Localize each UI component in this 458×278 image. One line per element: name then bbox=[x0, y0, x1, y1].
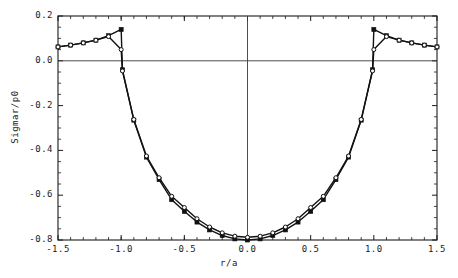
chart-figure bbox=[0, 0, 458, 278]
data-point-marker bbox=[56, 45, 60, 49]
figure-background bbox=[0, 0, 458, 278]
y-tick-label: -0.2 bbox=[19, 100, 53, 110]
data-point-marker bbox=[422, 43, 426, 47]
y-tick-label: -0.6 bbox=[19, 189, 53, 199]
x-tick-label: 1.5 bbox=[417, 244, 457, 254]
data-point-marker bbox=[384, 35, 388, 39]
data-point-marker bbox=[195, 217, 199, 221]
data-point-marker bbox=[208, 225, 212, 229]
data-point-marker bbox=[271, 231, 275, 235]
data-point-marker bbox=[309, 206, 313, 210]
x-axis-label: r/a bbox=[0, 258, 458, 268]
x-tick-label: -0.5 bbox=[164, 244, 204, 254]
data-point-marker bbox=[144, 154, 148, 158]
x-tick-label: -1.5 bbox=[38, 244, 78, 254]
data-point-marker bbox=[371, 69, 375, 73]
x-tick-label: 0.0 bbox=[228, 244, 268, 254]
data-point-marker bbox=[372, 48, 376, 52]
data-point-marker bbox=[119, 27, 123, 31]
data-point-marker bbox=[120, 69, 124, 73]
data-point-marker bbox=[397, 38, 401, 42]
data-point-marker bbox=[233, 234, 237, 238]
data-point-marker bbox=[258, 234, 262, 238]
data-point-marker bbox=[410, 41, 414, 45]
data-point-marker bbox=[435, 45, 439, 49]
y-tick-label: -0.8 bbox=[19, 234, 53, 244]
data-point-marker bbox=[81, 41, 85, 45]
x-tick-label: -1.0 bbox=[101, 244, 141, 254]
x-tick-label: 1.0 bbox=[354, 244, 394, 254]
data-point-marker bbox=[359, 117, 363, 121]
data-point-marker bbox=[220, 231, 224, 235]
data-point-marker bbox=[372, 27, 376, 31]
data-point-marker bbox=[119, 48, 123, 52]
data-point-marker bbox=[157, 176, 161, 180]
data-point-marker bbox=[246, 235, 250, 239]
y-tick-label: 0.0 bbox=[19, 55, 53, 65]
data-point-marker bbox=[69, 43, 73, 47]
y-tick-label: 0.2 bbox=[19, 10, 53, 20]
data-point-marker bbox=[347, 154, 351, 158]
data-point-marker bbox=[132, 117, 136, 121]
data-point-marker bbox=[94, 38, 98, 42]
data-point-marker bbox=[283, 225, 287, 229]
data-point-marker bbox=[107, 35, 111, 39]
data-point-marker bbox=[321, 194, 325, 198]
data-point-marker bbox=[334, 176, 338, 180]
data-point-marker bbox=[296, 217, 300, 221]
y-tick-label: -0.4 bbox=[19, 144, 53, 154]
x-tick-label: 0.5 bbox=[291, 244, 331, 254]
data-point-marker bbox=[170, 194, 174, 198]
data-point-marker bbox=[182, 206, 186, 210]
